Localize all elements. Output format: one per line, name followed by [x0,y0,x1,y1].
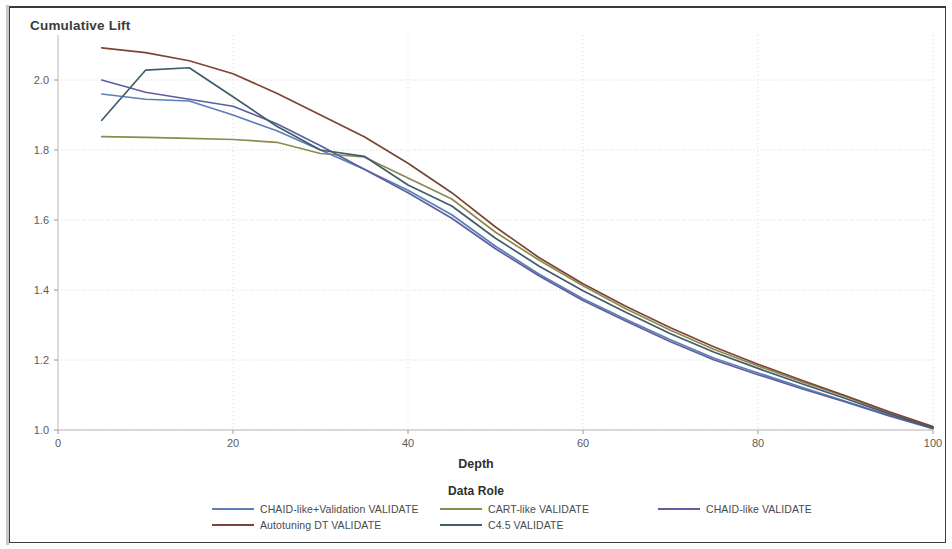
legend-row-1: CHAID-like+Validation VALIDATE CART-like… [0,501,952,517]
svg-text:1.6: 1.6 [34,214,49,226]
cumulative-lift-chart: Cumulative Lift 1.01.21.41.61.82.0 02040… [0,0,952,549]
svg-text:0: 0 [55,437,61,449]
svg-text:2.0: 2.0 [34,74,49,86]
x-axis-title: Depth [0,457,952,471]
svg-text:80: 80 [752,437,764,449]
svg-text:1.0: 1.0 [34,424,49,436]
screenshot-root: Cumulative Lift 1.01.21.41.61.82.0 02040… [0,0,952,549]
svg-text:20: 20 [227,437,239,449]
legend-item-label: CHAID-like+Validation VALIDATE [260,503,419,515]
svg-text:1.2: 1.2 [34,354,49,366]
legend-swatch-icon [440,508,482,510]
chart-legend: Data Role CHAID-like+Validation VALIDATE… [0,484,952,533]
legend-swatch-icon [212,524,254,526]
svg-text:40: 40 [402,437,414,449]
series-line [102,68,933,428]
gridlines-horizontal [58,80,933,430]
svg-text:60: 60 [577,437,589,449]
series-line [102,94,933,428]
legend-item-chaid-like[interactable]: CHAID-like VALIDATE [658,503,858,515]
legend-item-label: CART-like VALIDATE [488,503,589,515]
legend-swatch-icon [440,524,482,526]
legend-row-2: Autotuning DT VALIDATE C4.5 VALIDATE [0,517,952,533]
plot-area: 1.01.21.41.61.82.0 020406080100 [0,0,952,460]
gridlines-vertical [233,35,933,430]
series-lines [102,48,933,429]
legend-item-label: CHAID-like VALIDATE [706,503,812,515]
series-line [102,137,933,428]
legend-item-chaid-like-validation[interactable]: CHAID-like+Validation VALIDATE [212,503,440,515]
legend-item-autotuning-dt[interactable]: Autotuning DT VALIDATE [212,519,440,531]
legend-item-label: Autotuning DT VALIDATE [260,519,381,531]
svg-text:1.4: 1.4 [34,284,49,296]
svg-text:1.8: 1.8 [34,144,49,156]
x-axis-tick-labels: 020406080100 [55,437,942,449]
legend-swatch-icon [658,508,700,510]
legend-item-cart-like[interactable]: CART-like VALIDATE [440,503,658,515]
legend-item-label: C4.5 VALIDATE [488,519,564,531]
legend-item-c45[interactable]: C4.5 VALIDATE [440,519,658,531]
svg-text:100: 100 [924,437,942,449]
legend-swatch-icon [212,508,254,510]
series-line [102,80,933,429]
y-axis-tick-labels: 1.01.21.41.61.82.0 [34,74,49,436]
legend-title: Data Role [0,484,952,498]
